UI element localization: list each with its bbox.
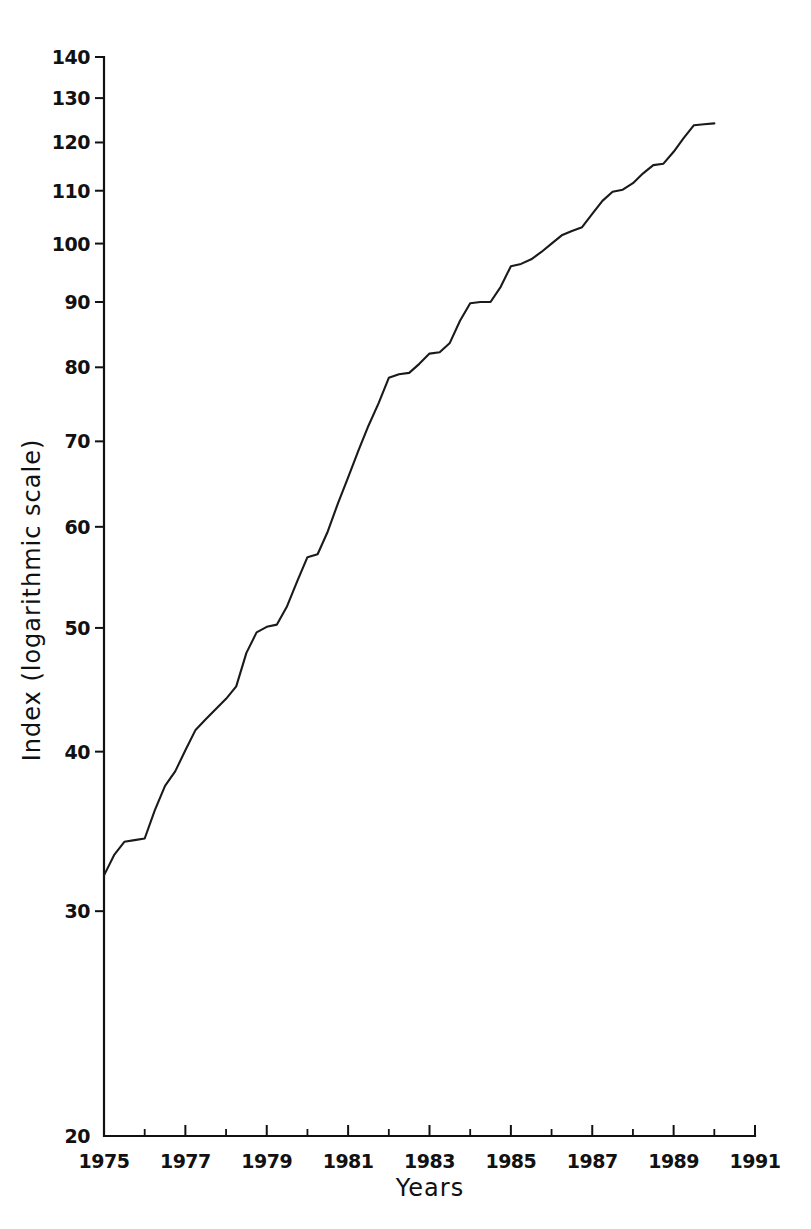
x-tick-label: 1987: [567, 1150, 618, 1172]
line-chart-svg: 1401301201101009080706050403020 19751977…: [0, 0, 811, 1229]
x-tick-label: 1975: [79, 1150, 130, 1172]
x-tick-label: 1981: [323, 1150, 374, 1172]
x-axis-title: Years: [395, 1174, 464, 1202]
y-axis-tick-labels: 1401301201101009080706050403020: [52, 46, 90, 1147]
x-axis-tick-labels: 197519771979198119831985198719891991: [79, 1150, 781, 1172]
x-tick-label: 1989: [648, 1150, 699, 1172]
y-tick-label: 60: [65, 516, 91, 538]
y-tick-label: 140: [52, 46, 90, 68]
x-tick-label: 1985: [485, 1150, 536, 1172]
y-axis-tick-marks: [95, 57, 104, 911]
y-tick-label: 120: [52, 131, 90, 153]
y-tick-label: 90: [65, 291, 91, 313]
x-tick-label: 1979: [241, 1150, 292, 1172]
y-tick-label: 70: [65, 430, 91, 452]
data-series-line: [104, 123, 714, 875]
y-tick-label: 40: [65, 741, 91, 763]
x-tick-label: 1977: [160, 1150, 211, 1172]
x-axis-major-tick-marks: [104, 1125, 755, 1136]
y-tick-label: 30: [65, 900, 91, 922]
y-tick-label: 100: [52, 233, 90, 255]
y-tick-label: 110: [52, 180, 90, 202]
y-tick-label: 80: [65, 356, 91, 378]
x-tick-label: 1991: [730, 1150, 781, 1172]
y-axis-title: Index (logarithmic scale): [18, 439, 46, 762]
y-tick-label: 20: [65, 1125, 91, 1147]
axis-frame: [104, 57, 755, 1136]
x-tick-label: 1983: [404, 1150, 455, 1172]
y-tick-label: 130: [52, 87, 90, 109]
chart-figure: 1401301201101009080706050403020 19751977…: [0, 0, 811, 1229]
y-tick-label: 50: [65, 617, 91, 639]
